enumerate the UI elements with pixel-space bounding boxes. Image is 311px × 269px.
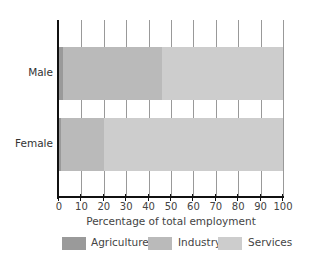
legend-label-services: Services (248, 236, 292, 248)
x-tick (103, 194, 104, 201)
bar-segment-services (162, 47, 283, 100)
x-tick-label: 60 (187, 201, 200, 212)
x-tick-label: 90 (254, 201, 267, 212)
x-tick (215, 194, 216, 201)
x-tick (58, 194, 59, 201)
category-label-female: Female (15, 137, 53, 149)
legend-label-industry: Industry (178, 236, 221, 248)
x-tick (125, 194, 126, 201)
x-tick-label: 10 (75, 201, 88, 212)
x-tick-label: 50 (165, 201, 178, 212)
bar-male (59, 47, 283, 100)
x-tick (282, 194, 283, 201)
x-tick (170, 194, 171, 201)
legend-swatch-services (218, 237, 242, 250)
x-tick-label: 20 (97, 201, 110, 212)
x-axis-title: Percentage of total employment (59, 215, 283, 227)
gridline (283, 20, 284, 197)
bar-female (59, 118, 283, 171)
x-tick (192, 194, 193, 201)
x-tick-label: 70 (209, 201, 222, 212)
category-label-male: Male (28, 66, 53, 78)
plot-area (59, 20, 283, 197)
x-tick-label: 100 (273, 201, 292, 212)
legend-swatch-agriculture (62, 237, 86, 250)
legend-label-agriculture: Agriculture (91, 236, 149, 248)
x-tick-label: 30 (120, 201, 133, 212)
x-tick (80, 194, 81, 201)
y-axis (57, 20, 59, 199)
x-tick (260, 194, 261, 201)
x-tick-label: 40 (142, 201, 155, 212)
legend: Agriculture Industry Services (0, 237, 311, 257)
bar-segment-services (104, 118, 283, 171)
x-tick (237, 194, 238, 201)
x-tick (148, 194, 149, 201)
bar-segment-industry (63, 47, 162, 100)
x-tick-label: 80 (232, 201, 245, 212)
legend-swatch-industry (148, 237, 172, 250)
bar-segment-industry (61, 118, 104, 171)
x-tick-label: 0 (56, 201, 62, 212)
